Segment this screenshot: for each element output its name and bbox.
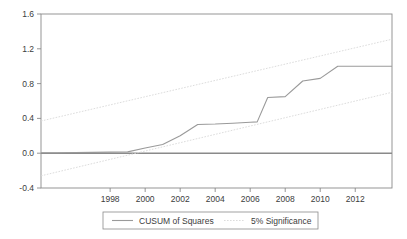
- x-tick-label: 2000: [136, 194, 155, 204]
- y-tick-label: 1.6: [22, 9, 34, 19]
- x-tick-label: 2012: [346, 194, 365, 204]
- x-tick-label: 2002: [171, 194, 190, 204]
- y-tick-label: -0.4: [19, 183, 34, 193]
- legend-label-cusum-of-squares: CUSUM of Squares: [139, 216, 214, 226]
- x-tick-label: 2010: [311, 194, 330, 204]
- x-tick-label: 2006: [241, 194, 260, 204]
- chart-legend: CUSUM of Squares 5% Significance: [103, 212, 318, 229]
- y-tick-label: 0.4: [22, 113, 34, 123]
- x-tick-label: 1998: [101, 194, 120, 204]
- x-tick-label: 2004: [206, 194, 225, 204]
- legend-label-5-percent-significance: 5% Significance: [251, 216, 312, 226]
- cusum-of-squares-chart: 1.61.20.80.40.0-0.4 19982000200220042006…: [0, 0, 407, 239]
- y-tick-label: 0.8: [22, 79, 34, 89]
- chart-canvas: 1.61.20.80.40.0-0.4 19982000200220042006…: [0, 0, 407, 239]
- y-tick-label: 1.2: [22, 44, 34, 54]
- y-tick-label: 0.0: [22, 148, 34, 158]
- x-tick-label: 2008: [276, 194, 295, 204]
